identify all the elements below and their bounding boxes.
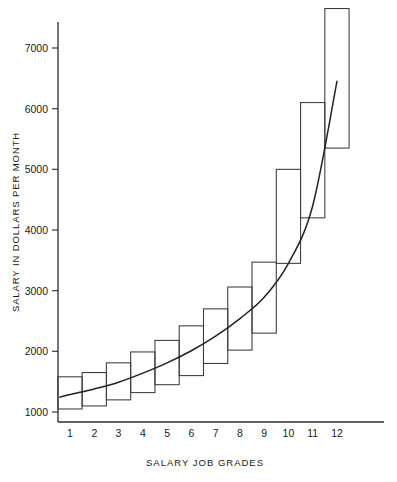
y-tick-label-5000: 5000	[25, 163, 49, 175]
y-tick-label-7000: 7000	[25, 42, 49, 54]
salary-trend-curve	[60, 81, 337, 397]
y-axis-tick-labels: 1000 2000 3000 4000 5000 6000 7000	[25, 42, 49, 418]
chart-root: 1000 2000 3000 4000 5000 6000 7000 SALAR…	[0, 0, 397, 482]
y-tick-label-3000: 3000	[25, 285, 49, 297]
y-tick-label-6000: 6000	[25, 103, 49, 115]
x-tick-label-8: 8	[237, 427, 243, 439]
x-tick-label-4: 4	[140, 427, 146, 439]
y-tick-label-4000: 4000	[25, 224, 49, 236]
salary-range-box-grade-3	[106, 363, 130, 400]
x-tick-label-9: 9	[261, 427, 267, 439]
x-tick-label-7: 7	[213, 427, 219, 439]
x-tick-label-10: 10	[283, 427, 295, 439]
y-tick-label-2000: 2000	[25, 345, 49, 357]
salary-range-box-grade-11	[301, 103, 325, 218]
x-axis-tick-labels: 1 2 3 4 5 6 7 8 9 10 11 12	[67, 427, 343, 439]
x-axis-title: SALARY JOB GRADES	[146, 457, 264, 468]
y-axis-title: SALARY IN DOLLARS PER MONTH	[10, 132, 21, 312]
x-tick-label-5: 5	[164, 427, 170, 439]
x-tick-label-12: 12	[331, 427, 343, 439]
x-tick-label-2: 2	[91, 427, 97, 439]
x-tick-label-6: 6	[188, 427, 194, 439]
salary-range-box-grade-4	[131, 352, 155, 393]
salary-job-grades-chart: 1000 2000 3000 4000 5000 6000 7000 SALAR…	[0, 0, 397, 482]
x-tick-label-3: 3	[116, 427, 122, 439]
salary-range-boxes	[58, 9, 349, 409]
salary-range-box-grade-10	[276, 169, 300, 263]
x-tick-label-1: 1	[67, 427, 73, 439]
x-tick-label-11: 11	[307, 427, 318, 439]
y-tick-label-1000: 1000	[25, 406, 49, 418]
y-axis-ticks	[52, 48, 58, 412]
